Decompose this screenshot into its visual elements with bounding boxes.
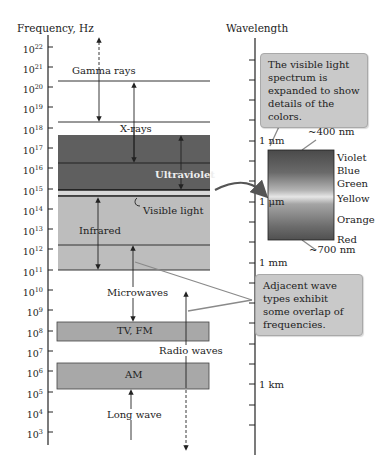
freq-tick-label: 1022: [3, 41, 43, 56]
infrared-label: Infrared: [79, 225, 121, 236]
freq-tick-label: 1019: [3, 101, 43, 116]
freq-tick-label: 104: [3, 406, 43, 421]
color-green: Green: [337, 178, 368, 190]
color-violet: Violet: [337, 152, 366, 164]
visible-spectrum-callout: The visible light spectrum is expanded t…: [260, 53, 368, 128]
tvfm-label: TV, FM: [117, 325, 153, 336]
freq-tick-label: 1014: [3, 203, 43, 218]
frequency-axis-title: Frequency, Hz: [17, 22, 94, 34]
ultraviolet-label: Ultraviolet: [155, 169, 215, 180]
radio-waves-label: Radio waves: [158, 345, 224, 356]
freq-tick-label: 1011: [3, 264, 43, 279]
freq-tick-label: 106: [3, 365, 43, 380]
color-yellow: Yellow: [337, 193, 370, 205]
color-blue: Blue: [337, 165, 360, 177]
freq-tick-label: 1012: [3, 243, 43, 258]
spectrum-top-label: ~400 nm: [308, 126, 355, 137]
freq-tick-label: 107: [3, 345, 43, 360]
freq-tick-label: 1021: [3, 61, 43, 76]
wavelength-axis: [249, 38, 255, 455]
long-wave-label: Long wave: [106, 409, 163, 420]
freq-tick-label: 1013: [3, 223, 43, 238]
freq-tick-label: 1020: [3, 81, 43, 96]
visible-light-band: [58, 191, 210, 196]
freq-tick-label: 108: [3, 325, 43, 340]
overlap-callout: Adjacent wave types exhibit some overlap…: [255, 274, 363, 336]
wavelength-label-um: 1 μm: [259, 196, 285, 207]
freq-tick-label: 1017: [3, 142, 43, 157]
wavelength-label-nm: 1 nm: [259, 135, 284, 146]
color-red: Red: [337, 234, 357, 246]
freq-tick-label: 1016: [3, 162, 43, 177]
freq-tick-label: 1018: [3, 122, 43, 137]
wavelength-label-km: 1 km: [259, 379, 284, 390]
gamma-rays-label: Gamma rays: [72, 65, 136, 76]
color-orange: Orange: [337, 214, 375, 226]
am-label: AM: [125, 369, 142, 380]
visible-spectrum-box: [268, 150, 334, 240]
freq-tick-label: 109: [3, 304, 43, 319]
wavelength-label-mm: 1 mm: [259, 257, 288, 268]
freq-tick-label: 105: [3, 386, 43, 401]
wavelength-axis-title: Wavelength: [226, 22, 288, 34]
frequency-axis: [48, 35, 53, 445]
freq-tick-label: 1010: [3, 284, 43, 299]
visible-light-label: Visible light: [143, 205, 204, 216]
freq-tick-label: 1015: [3, 183, 43, 198]
xrays-label: X-rays: [120, 123, 152, 134]
freq-tick-label: 103: [3, 426, 43, 441]
microwaves-label: Microwaves: [106, 287, 169, 298]
